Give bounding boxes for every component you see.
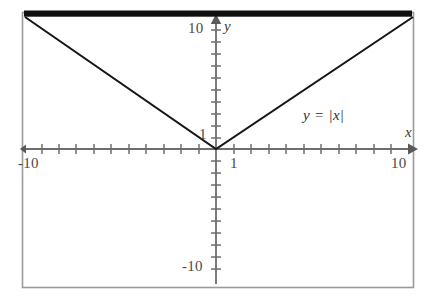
y-axis-tick-label-10: 10 <box>188 20 203 37</box>
x-axis-name: x <box>405 124 412 141</box>
scan-artifact-bar <box>24 11 412 17</box>
y-axis-name: y <box>224 18 231 35</box>
x-axis-tick-label-neg-10: -10 <box>18 155 39 172</box>
graph-figure: 10 1 -10 -10 1 10 y x y = |x| <box>0 0 436 300</box>
curve-y-equals-abs-x <box>25 17 413 149</box>
plot-canvas <box>0 0 436 300</box>
curve-equation-annotation: y = |x| <box>303 107 344 124</box>
x-axis-tick-label-1: 1 <box>230 155 238 172</box>
series-absolute-value <box>25 17 413 149</box>
y-axis-tick-label-neg-10: -10 <box>182 258 203 275</box>
y-axis-tick-label-1: 1 <box>199 126 207 143</box>
x-axis-tick-label-10: 10 <box>391 155 406 172</box>
